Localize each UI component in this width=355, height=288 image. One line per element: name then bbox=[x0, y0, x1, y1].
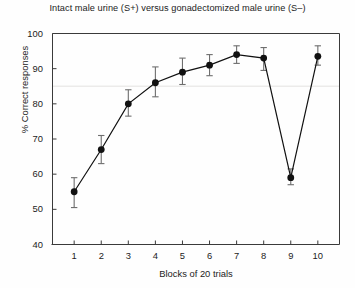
plot-area bbox=[0, 0, 355, 288]
x-tick-label: 9 bbox=[280, 250, 302, 261]
axis-ticks bbox=[53, 34, 318, 245]
y-tick-label: 40 bbox=[17, 239, 43, 250]
x-tick-label: 8 bbox=[253, 250, 275, 261]
x-tick-label: 4 bbox=[144, 250, 166, 261]
y-tick-label: 60 bbox=[17, 168, 43, 179]
x-tick-label: 10 bbox=[307, 250, 329, 261]
y-tick-label: 70 bbox=[17, 133, 43, 144]
x-tick-label: 3 bbox=[117, 250, 139, 261]
x-tick-label: 6 bbox=[199, 250, 221, 261]
data-line bbox=[74, 55, 318, 192]
y-tick-label: 100 bbox=[17, 28, 43, 39]
y-tick-label: 80 bbox=[17, 98, 43, 109]
x-tick-label: 1 bbox=[63, 250, 85, 261]
axes-frame bbox=[52, 34, 340, 245]
error-bars bbox=[71, 46, 321, 208]
x-tick-label: 5 bbox=[171, 250, 193, 261]
data-markers bbox=[71, 51, 321, 195]
y-tick-label: 90 bbox=[17, 63, 43, 74]
y-tick-label: 50 bbox=[17, 203, 43, 214]
x-tick-label: 2 bbox=[90, 250, 112, 261]
figure-container: Intact male urine (S+) versus gonadectom… bbox=[0, 0, 355, 288]
x-tick-label: 7 bbox=[226, 250, 248, 261]
